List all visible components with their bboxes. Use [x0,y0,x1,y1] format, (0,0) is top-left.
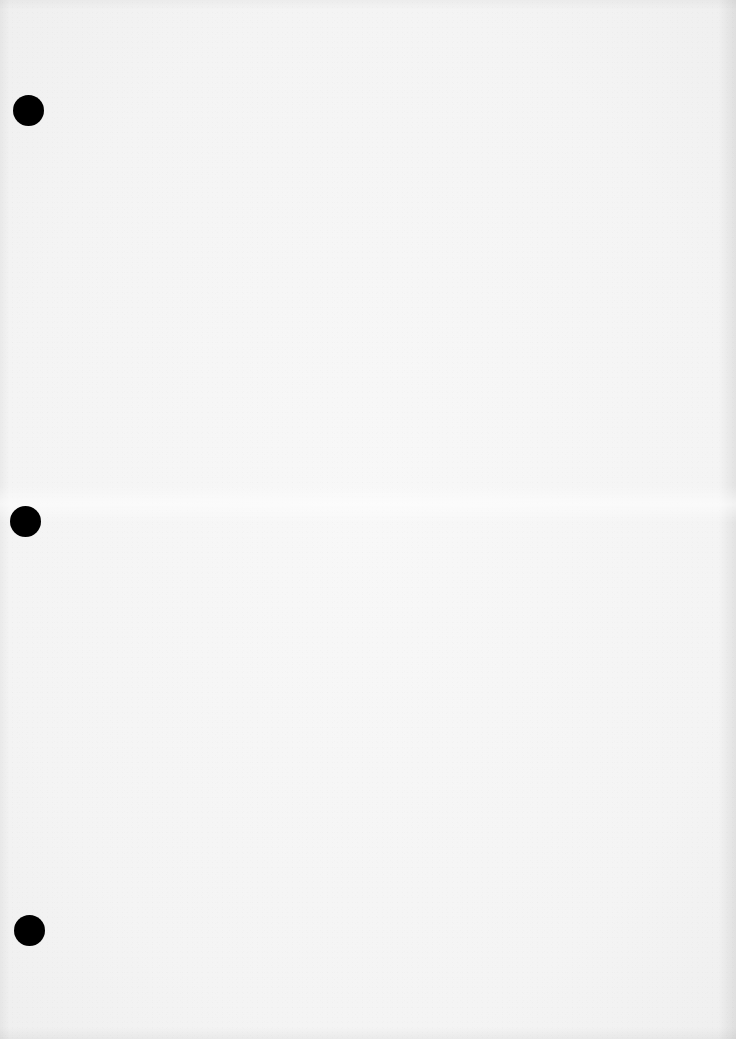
punch-hole-top [13,95,44,126]
punch-hole-bottom [14,915,45,946]
scan-light-band [0,485,736,523]
punch-hole-middle [10,506,41,537]
scanned-page [0,0,736,1039]
